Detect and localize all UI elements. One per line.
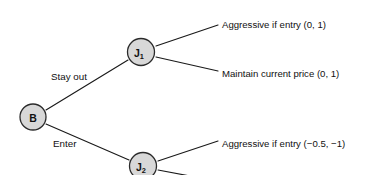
outcome-label-1: Aggressive if entry (0, 1) [222, 19, 326, 30]
edge-label-enter: Enter [53, 138, 77, 149]
edge-label-stay-out: Stay out [51, 71, 87, 82]
game-tree-canvas: B J1 J2 Stay out Enter Aggressive if ent… [0, 0, 383, 175]
edge-j2-to-outcome-4 [158, 170, 222, 175]
edge-j1-to-outcome-1 [156, 25, 218, 46]
outcome-label-3: Aggressive if entry (−0.5, −1) [222, 138, 345, 149]
game-tree-diagram: B J1 J2 Stay out Enter Aggressive if ent… [0, 0, 383, 175]
edge-b-to-j1 [46, 60, 128, 110]
node-b-label: B [29, 112, 37, 124]
edge-j1-to-outcome-2 [156, 57, 218, 71]
outcome-label-2: Maintain current price (0, 1) [222, 68, 339, 79]
edge-j2-to-outcome-3 [158, 141, 218, 161]
